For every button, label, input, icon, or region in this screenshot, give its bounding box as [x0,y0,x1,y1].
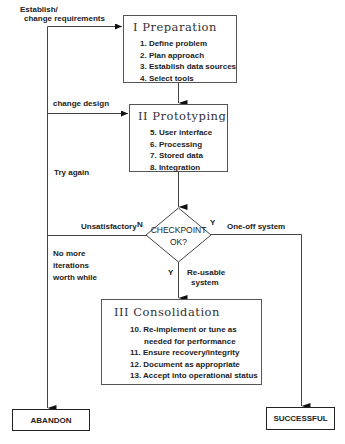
stage-consolidation-title: III Consolidation [114,305,220,319]
stage-prototyping-box: II Prototyping 5. User interface 6. Proc… [129,104,228,172]
stage-item: 7. Stored data [150,150,212,162]
establish-label-2: change requirements [24,14,105,24]
stage-consolidation-box: III Consolidation 10. Re-implement or tu… [101,299,262,385]
stage-preparation-box: I Preparation 1. Define problem 2. Plan … [123,15,237,83]
stage-item: 12. Document as appropriate [130,359,258,371]
checkpoint-line1: CHECKPOINT [146,224,211,236]
reusable-label-2: system [191,278,219,288]
no-more-label-2: iterations [53,261,89,271]
no-more-label-1: No more [53,249,85,259]
no-more-label-3: worth while [53,273,97,283]
unsatisfactory-label: Unsatisfactory [81,222,137,232]
stage-prototyping-title: II Prototyping [138,109,226,123]
stage-item: 13. Accept into operational status [130,370,258,382]
successful-box: SUCCESSFUL [266,407,335,430]
checkpoint-label: CHECKPOINT OK? [146,224,211,248]
stage-preparation-title: I Preparation [133,20,217,34]
abandon-box: ABANDON [12,409,90,431]
reusable-label-1: Re-usable [187,268,225,278]
stage-item: 2. Plan approach [140,50,236,62]
change-design-label: change design [53,99,109,109]
stage-item: 5. User interface [150,127,212,139]
n-label: N [137,220,143,230]
stage-item: 11. Ensure recovery/integrity [130,347,258,359]
y-down-label: Y [168,268,173,278]
stage-item: 3. Establish data sources [140,61,236,73]
checkpoint-line2: OK? [146,236,211,248]
stage-item: 4. Select tools [140,73,236,85]
stage-item: 8. Integration [150,162,212,174]
one-off-label: One-off system [227,222,285,232]
stage-item: 1. Define problem [140,38,236,50]
try-again-label: Try again [54,168,89,178]
stage-item: needed for performance [130,336,258,348]
stage-item: 10. Re-implement or tune as [130,324,258,336]
stage-item: 6. Processing [150,139,212,151]
